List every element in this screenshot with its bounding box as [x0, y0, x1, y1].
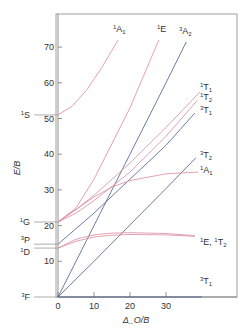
series-label-1T2-upper: 1T2 [200, 92, 213, 103]
y-tick-label: 40 [44, 149, 54, 159]
y-tick-label: 60 [44, 78, 54, 88]
free-ion-label: 1S [21, 110, 30, 120]
x-tick-label: 0 [55, 301, 60, 311]
y-tick-label: 70 [44, 42, 54, 52]
y-axis-title: E/B [12, 161, 22, 176]
series-labels: 3T13T23A23T11A11T21T11E1A11E, 1T2 [113, 24, 227, 287]
series-line-3T2 [58, 158, 196, 297]
series-label-3T1-P: 3T1 [200, 105, 213, 116]
series-line-1A1-lower [58, 172, 198, 222]
series-label-1A1-upper: 1A1 [113, 24, 126, 35]
series-line-1E-upper [58, 40, 159, 222]
y-tick-label: 10 [44, 256, 54, 266]
free-ion-label: 3P [21, 235, 30, 245]
x-tick-label: 20 [125, 301, 135, 311]
series-label-1E-upper: 1E [157, 24, 166, 34]
free-ion-label: 3F [21, 292, 30, 302]
x-ticks: 0102030 [55, 292, 237, 311]
free-ion-label: 1D [20, 247, 30, 257]
series-lines [58, 40, 202, 297]
series-label-1A1-lower: 1A1 [200, 165, 213, 176]
free-ion-label: 1G [20, 217, 30, 227]
series-line-1D-1E [58, 235, 195, 249]
series-label-3T2: 3T2 [200, 150, 213, 161]
series-label-1E-1T2: 1E, 1T2 [200, 237, 227, 248]
series-line-1A1-upper [58, 40, 118, 115]
series-line-3T1-P [58, 113, 195, 244]
x-axis-title: Δ_O/B [122, 315, 150, 325]
y-tick-label: 30 [44, 185, 54, 195]
series-line-3A2 [58, 42, 186, 297]
tanabe-sugano-chart: 0102030 10203040506070 3F1D3P1G1S 3T13T2… [0, 0, 249, 332]
series-label-3T1-ground: 3T1 [200, 276, 213, 287]
y-ticks: 10203040506070 [44, 14, 62, 297]
free-ion-terms: 3F1D3P1G1S [20, 110, 58, 302]
x-tick-label: 10 [89, 301, 99, 311]
series-label-3A2: 3A2 [179, 26, 192, 37]
x-tick-label: 30 [161, 301, 171, 311]
